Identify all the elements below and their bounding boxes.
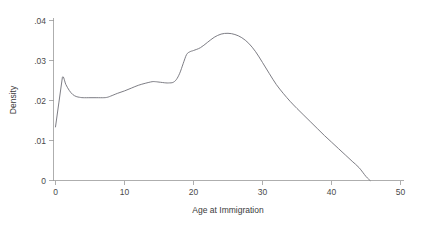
y-tick-label-004: .04 (34, 16, 46, 26)
chart-svg: .04 .03 .02 .01 0 0 10 20 30 40 50 Age a… (0, 0, 432, 226)
x-tick-label-40: 40 (327, 187, 337, 197)
y-tick-label-002: .02 (34, 96, 46, 106)
y-tick-label-001: .01 (34, 136, 46, 146)
x-tick-marks (56, 181, 401, 186)
x-tick-label-30: 30 (258, 187, 268, 197)
y-tick-label-003: .03 (34, 56, 46, 66)
x-tick-label-0: 0 (53, 187, 58, 197)
x-tick-labels: 0 10 20 30 40 50 (53, 187, 405, 197)
density-chart: .04 .03 .02 .01 0 0 10 20 30 40 50 Age a… (0, 0, 432, 226)
y-tick-label-0: 0 (41, 176, 46, 186)
y-axis-title: Density (8, 85, 18, 114)
density-curve (56, 33, 371, 180)
y-tick-marks (49, 21, 54, 181)
y-tick-labels: .04 .03 .02 .01 0 (34, 16, 46, 186)
x-tick-label-20: 20 (189, 187, 199, 197)
x-axis-title: Age at Immigration (192, 205, 264, 215)
x-tick-label-10: 10 (120, 187, 130, 197)
x-tick-label-50: 50 (396, 187, 406, 197)
